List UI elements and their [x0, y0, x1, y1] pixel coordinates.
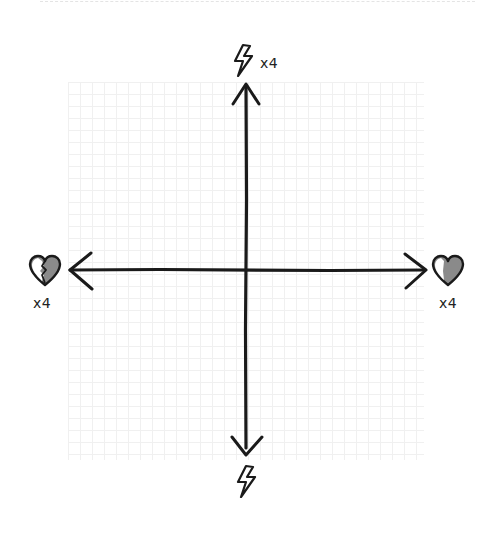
lightning-bolt-icon — [235, 45, 252, 76]
lightning-bolt-icon — [238, 466, 255, 497]
top-multiplier-label: x4 — [260, 55, 278, 71]
broken-heart-icon — [30, 256, 60, 285]
left-multiplier-label: x4 — [33, 295, 51, 311]
right-multiplier-label: x4 — [439, 295, 457, 311]
horizontal-axis — [70, 253, 426, 289]
half-filled-heart-icon — [433, 256, 463, 285]
axis-diagram — [0, 0, 491, 533]
